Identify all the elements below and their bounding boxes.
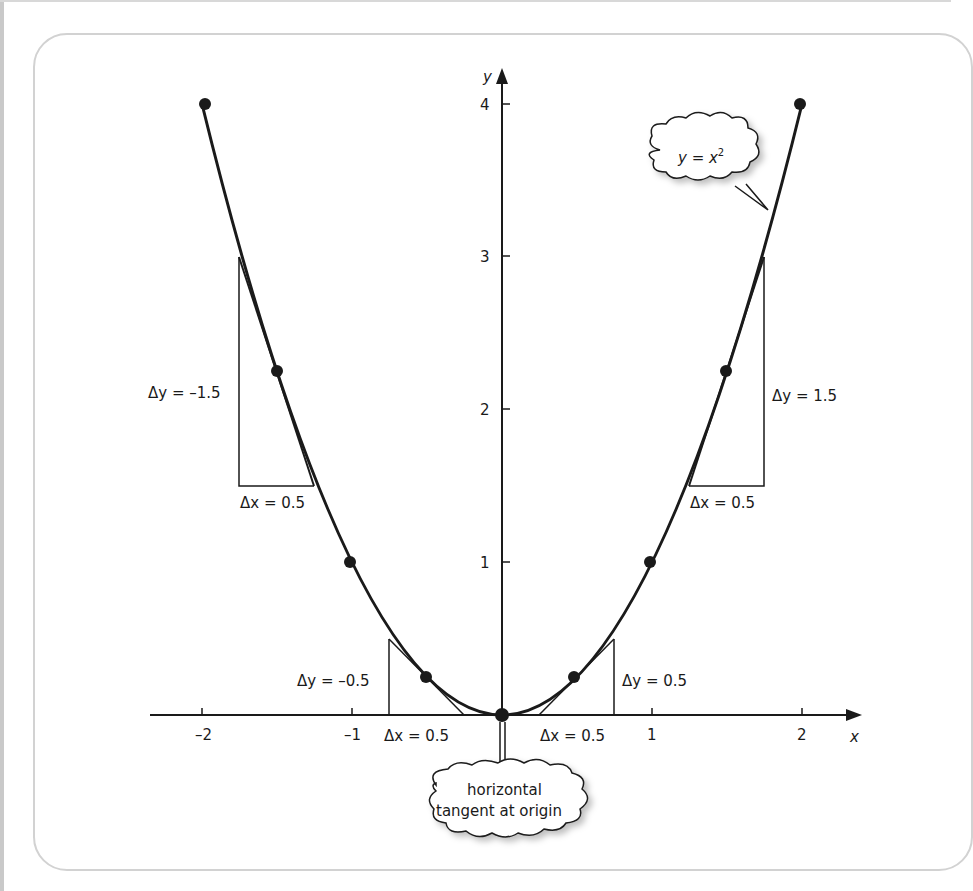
dy-label-left-big: Δy = –1.5 (148, 384, 221, 402)
x-axis-arrow-icon (846, 709, 862, 721)
origin-callout-line1: horizontal (467, 781, 542, 799)
dx-label-right-big: Δx = 0.5 (690, 494, 755, 512)
y-tick-label: 3 (480, 248, 490, 266)
point-marker (420, 671, 432, 683)
point-marker (644, 556, 656, 568)
dx-label-left-big: Δx = 0.5 (240, 494, 305, 512)
y-tick-label: 4 (480, 96, 490, 114)
x-tick-label: 2 (797, 726, 807, 744)
x-tick-label: –2 (195, 726, 212, 744)
x-tick-label: –1 (344, 726, 361, 744)
x-tick-label: 1 (647, 726, 657, 744)
point-marker (344, 556, 356, 568)
curve-equation-text: y = x2 (677, 147, 724, 167)
curve-equation-callout: y = x2 (649, 112, 768, 210)
dx-label-left-small: Δx = 0.5 (384, 727, 449, 745)
y-axis-label: y (482, 68, 493, 86)
x-axis-label: x (849, 728, 859, 746)
point-marker (271, 365, 283, 377)
y-axis: 1 2 3 4 y (480, 68, 510, 715)
dy-label-right-big: Δy = 1.5 (772, 387, 837, 405)
dy-label-left-small: Δy = –0.5 (297, 672, 370, 690)
origin-point-marker (495, 708, 509, 722)
point-marker (568, 671, 580, 683)
y-tick-label: 2 (480, 401, 490, 419)
point-marker (720, 365, 732, 377)
point-marker (199, 98, 211, 110)
dx-label-right-small: Δx = 0.5 (540, 727, 605, 745)
dy-label-right-small: Δy = 0.5 (622, 672, 687, 690)
y-tick-label: 1 (480, 554, 490, 572)
y-axis-arrow-icon (496, 68, 508, 84)
origin-callout-line2: tangent at origin (436, 802, 562, 820)
point-marker (794, 98, 806, 110)
